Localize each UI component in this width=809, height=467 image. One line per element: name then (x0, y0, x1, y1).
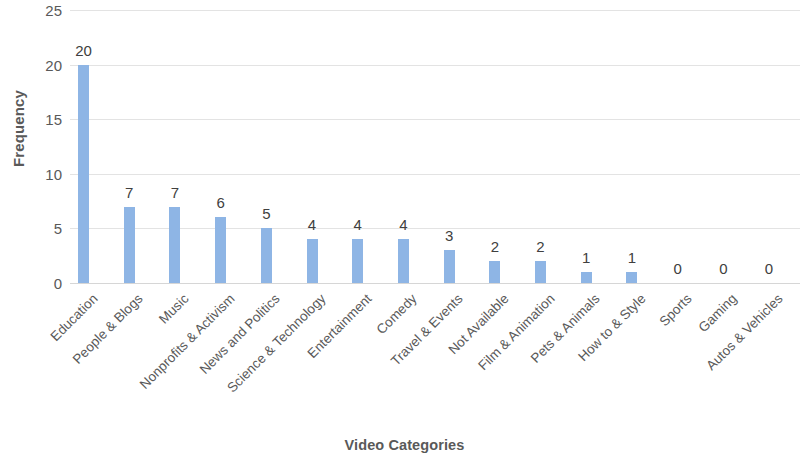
x-label-text: Sports (656, 291, 694, 329)
x-category-label: Comedy (409, 255, 455, 301)
x-category-label: Autos & Vehicles (775, 219, 809, 301)
x-category-label: Sports (684, 263, 722, 301)
x-label-text: Gaming (696, 291, 740, 335)
x-category-label: Music (181, 266, 217, 302)
x-category-label: Film & Animation (547, 219, 629, 301)
x-axis-title: Video Categories (0, 437, 809, 453)
bar-chart: Frequency 0510152025 20776544432211000 E… (0, 0, 809, 467)
x-label-text: Comedy (374, 291, 420, 337)
x-category-label: Gaming (729, 258, 773, 302)
x-category-label: News and Politics (272, 216, 358, 302)
x-axis-category-labels: EducationPeople & BlogsMusicNonprofits &… (0, 0, 809, 467)
x-label-text: Music (156, 291, 192, 327)
x-label-text: News and Politics (197, 291, 283, 377)
